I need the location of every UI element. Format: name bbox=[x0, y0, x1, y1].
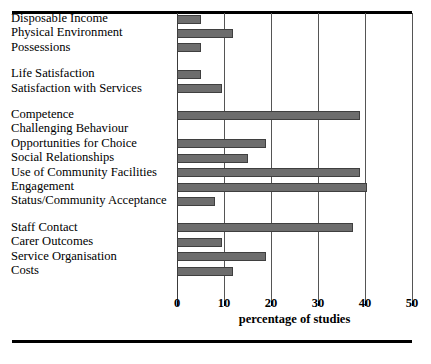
bar bbox=[177, 70, 201, 79]
category-label: Engagement bbox=[11, 180, 74, 193]
category-label: Use of Community Facilities bbox=[11, 166, 157, 179]
bar bbox=[177, 267, 233, 276]
gridline-50 bbox=[412, 13, 413, 301]
category-label: Service Organisation bbox=[11, 250, 117, 263]
category-label: Competence bbox=[11, 108, 74, 121]
x-tick-label-50: 50 bbox=[392, 296, 431, 311]
x-tick-label-20: 20 bbox=[251, 296, 291, 311]
bar bbox=[177, 111, 360, 120]
bar bbox=[177, 43, 201, 52]
category-label: Carer Outcomes bbox=[11, 235, 93, 248]
bar bbox=[177, 29, 233, 38]
bar bbox=[177, 168, 360, 177]
category-label: Status/Community Acceptance bbox=[11, 194, 167, 207]
category-label: Challenging Behaviour bbox=[11, 122, 128, 135]
bar bbox=[177, 223, 353, 232]
gridline-40 bbox=[365, 13, 366, 301]
bar bbox=[177, 197, 215, 206]
category-axis-labels: Disposable IncomePhysical EnvironmentPos… bbox=[11, 13, 177, 301]
x-tick-label-0: 0 bbox=[157, 296, 197, 311]
bar bbox=[177, 139, 266, 148]
x-tick-label-40: 40 bbox=[345, 296, 385, 311]
category-label: Possessions bbox=[11, 41, 71, 54]
x-axis-title: percentage of studies bbox=[177, 312, 412, 327]
bar bbox=[177, 238, 222, 247]
category-label: Staff Contact bbox=[11, 221, 78, 234]
category-label: Social Relationships bbox=[11, 151, 114, 164]
category-label: Physical Environment bbox=[11, 26, 123, 39]
bar bbox=[177, 84, 222, 93]
bar-chart-figure: Disposable IncomePhysical EnvironmentPos… bbox=[0, 0, 431, 364]
x-tick-label-10: 10 bbox=[204, 296, 244, 311]
gridline-30 bbox=[318, 13, 319, 301]
category-label: Opportunities for Choice bbox=[11, 137, 137, 150]
category-label: Disposable Income bbox=[11, 12, 108, 25]
category-label: Satisfaction with Services bbox=[11, 82, 142, 95]
bar bbox=[177, 15, 201, 24]
bar bbox=[177, 154, 248, 163]
bottom-rule-divider bbox=[12, 340, 412, 343]
x-tick-label-30: 30 bbox=[298, 296, 338, 311]
bar bbox=[177, 252, 266, 261]
plot-area bbox=[177, 13, 412, 301]
category-label: Costs bbox=[11, 264, 39, 277]
bar bbox=[177, 183, 367, 192]
category-label: Life Satisfaction bbox=[11, 67, 95, 80]
gridline-20 bbox=[271, 13, 272, 301]
